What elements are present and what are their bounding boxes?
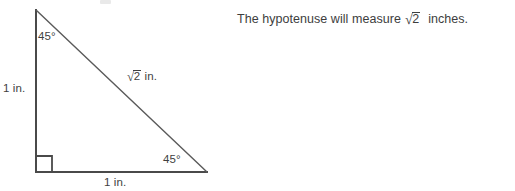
leg-bottom-label: 1 in. [104, 177, 126, 189]
hypotenuse-label: √2 in. [127, 69, 157, 83]
hypotenuse-radical: √2 [127, 69, 141, 83]
triangle-diagram: 45° 45° 1 in. 1 in. √2 in. [0, 0, 230, 191]
right-angle-marker-icon [36, 156, 52, 172]
answer-radical: √2 [405, 11, 420, 27]
leg-left-label: 1 in. [3, 83, 25, 95]
answer-sentence: The hypotenuse will measure√2inches. [237, 11, 512, 27]
angle-bottom-right-label: 45° [163, 154, 181, 166]
hypotenuse-unit: in. [141, 70, 157, 82]
answer-suffix: inches. [428, 12, 468, 26]
diagram-page: 45° 45° 1 in. 1 in. √2 in. The hypotenus… [0, 0, 515, 191]
triangle-shape [0, 0, 230, 191]
answer-prefix: The hypotenuse will measure [237, 12, 401, 26]
angle-top-label: 45° [38, 31, 56, 43]
answer-radicand: 2 [412, 12, 421, 26]
hypotenuse-line [36, 10, 207, 172]
hypotenuse-radicand: 2 [133, 70, 141, 83]
